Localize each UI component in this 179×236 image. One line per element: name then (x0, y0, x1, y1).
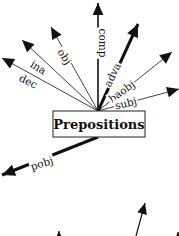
edge-label-ina: ina (28, 58, 48, 77)
arrowhead-icon (137, 203, 147, 215)
arrowhead-icon (2, 58, 15, 69)
edge-label-pobj: pobj (29, 154, 55, 173)
center-node-label: Prepositions (53, 117, 144, 132)
arrowhead-icon (159, 52, 172, 64)
partial-edges-bottom (56, 203, 179, 236)
arrowhead-icon (166, 87, 179, 97)
arrowhead-icon (51, 27, 62, 40)
arrowhead-icon (93, 3, 104, 15)
arrowhead-icon (56, 231, 62, 236)
edge-label-comp: comp (97, 29, 109, 58)
edge-group (2, 3, 179, 176)
relation-diagram: decinaobjcompadvabaobjsubjpobj Prepositi… (0, 0, 179, 236)
